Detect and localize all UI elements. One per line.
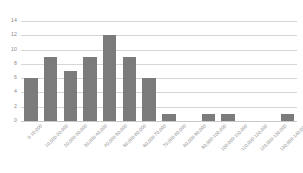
x-axis-tick-label: 130,000-140,000 [280,124,303,152]
x-label-slot: 70,000-80,000 [159,123,179,171]
x-label-slot: 100,000-110,000 [218,123,238,171]
gridline [21,121,297,122]
histogram-chart: 02468101214 0-10,00010,000-20,00020,000-… [0,0,303,173]
y-axis-tick-label: 12 [11,33,17,38]
y-axis-tick-label: 6 [14,76,17,81]
histogram-bar[interactable] [123,57,136,121]
histogram-bar[interactable] [103,35,116,121]
x-label-slot: 40,000-50,000 [100,123,120,171]
bar-slot [179,21,199,121]
x-label-slot: 130,000-140,000 [277,123,297,171]
histogram-bar[interactable] [142,78,155,121]
bar-slot [218,21,238,121]
histogram-bar[interactable] [281,114,294,121]
x-label-slot: 120,000-130,000 [258,123,278,171]
histogram-bar[interactable] [24,78,37,121]
y-axis-tick-label: 8 [14,61,17,66]
histogram-bar[interactable] [221,114,234,121]
y-axis-tick-label: 14 [11,18,17,23]
bar-slot [41,21,61,121]
y-axis-tick-label: 4 [14,90,17,95]
bars-group [21,21,297,121]
x-label-slot: 80,000-90,000 [179,123,199,171]
bar-slot [139,21,159,121]
plot-area: 02468101214 [21,21,297,121]
y-axis-tick-label: 10 [11,47,17,52]
x-axis-tick-labels: 0-10,00010,000-20,00020,000-30,00030,000… [21,123,297,171]
histogram-bar[interactable] [64,71,77,121]
bar-slot [100,21,120,121]
x-label-slot: 50,000-60,000 [120,123,140,171]
bar-slot [60,21,80,121]
x-label-slot: 10,000-20,000 [41,123,61,171]
histogram-bar[interactable] [83,57,96,121]
x-label-slot: 110,000-120,000 [238,123,258,171]
bar-slot [21,21,41,121]
bar-slot [159,21,179,121]
x-label-slot: 90,000-100,000 [198,123,218,171]
bar-slot [80,21,100,121]
x-label-slot: 0-10,000 [21,123,41,171]
bar-slot [238,21,258,121]
bar-slot [198,21,218,121]
histogram-bar[interactable] [162,114,175,121]
x-label-slot: 30,000-40,000 [80,123,100,171]
bar-slot [258,21,278,121]
x-label-slot: 20,000-30,000 [60,123,80,171]
histogram-bar[interactable] [202,114,215,121]
x-label-slot: 60,000-70,000 [139,123,159,171]
bar-slot [120,21,140,121]
bar-slot [277,21,297,121]
histogram-bar[interactable] [44,57,57,121]
y-axis-tick-label: 2 [14,104,17,109]
y-axis-tick-label: 0 [14,118,17,123]
